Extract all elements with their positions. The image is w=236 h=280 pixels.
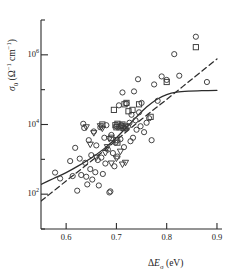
y-tick-base: 10 [27, 188, 36, 198]
data-point-circle [102, 135, 107, 140]
data-point-circle [75, 188, 80, 193]
y-axis-label-cm-exp: −1 [5, 42, 12, 49]
data-point-circle [58, 176, 63, 181]
data-point-circle [100, 171, 105, 176]
y-tick-base: 10 [27, 49, 36, 59]
x-axis-label: ΔEσ (eV) [148, 258, 183, 268]
data-point-circle [94, 143, 99, 148]
data-point-square [148, 114, 153, 119]
y-axis-label-paren-close: ) [7, 39, 17, 42]
data-point-circle [131, 89, 136, 94]
data-point-circle [79, 172, 84, 177]
y-axis-label-omega: Ω [7, 70, 17, 77]
y-axis-label-paren-open: ( [7, 77, 17, 80]
data-point-circle [152, 82, 157, 87]
data-point-circle [85, 182, 90, 187]
data-point-triangle-down [87, 142, 93, 147]
data-point-circle [84, 174, 89, 179]
y-axis-label: σ0 (Ω−1 cm−1) [7, 32, 17, 98]
data-point-circle [177, 73, 182, 78]
y-tick-base: 10 [27, 119, 36, 129]
data-points [52, 34, 209, 195]
data-point-circle [172, 52, 177, 57]
data-point-triangle-down [106, 137, 112, 142]
data-point-circle [193, 34, 198, 39]
data-point-circle [96, 183, 101, 188]
data-point-circle [164, 77, 169, 82]
fit-curves [41, 59, 217, 201]
x-tick-label: 0.7 [102, 232, 130, 242]
data-point-square [193, 45, 198, 50]
data-point-circle [141, 130, 146, 135]
data-point-circle [138, 124, 143, 129]
data-point-circle [204, 79, 209, 84]
data-point-circle [149, 138, 154, 143]
y-tick-label: 102 [17, 188, 39, 198]
data-point-triangle-down [83, 125, 89, 130]
data-point-square [111, 107, 116, 112]
series-squares [100, 45, 199, 146]
x-axis-label-subscript: σ [160, 263, 164, 270]
data-point-circle [120, 90, 125, 95]
x-tick-label: 0.9 [203, 232, 231, 242]
data-point-circle [93, 170, 98, 175]
y-tick-exponent: 6 [36, 48, 39, 54]
data-point-circle [52, 170, 57, 175]
data-point-circle [103, 161, 108, 166]
data-point-circle [147, 116, 152, 121]
y-tick-label: 106 [17, 49, 39, 59]
data-point-circle [88, 166, 93, 171]
data-point-circle [135, 77, 140, 82]
x-tick-label: 0.6 [52, 232, 80, 242]
y-axis-label-symbol: σ [7, 86, 17, 91]
data-point-circle [68, 158, 73, 163]
data-point-circle [73, 145, 78, 150]
x-axis-label-unit: (eV) [166, 258, 183, 268]
data-point-circle [90, 177, 95, 182]
y-axis-label-subscript: 0 [12, 83, 19, 86]
dashed-fit [41, 59, 217, 201]
data-point-circle [77, 156, 82, 161]
data-point-circle [159, 74, 164, 79]
y-axis-label-cm: cm [7, 49, 17, 61]
y-tick-label: 104 [17, 119, 39, 129]
y-tick-exponent: 4 [36, 118, 39, 124]
y-tick-exponent: 2 [36, 187, 39, 193]
x-tick-label: 0.8 [153, 232, 181, 242]
data-point-circle [110, 150, 115, 155]
figure: σ0 (Ω−1 cm−1) ΔEσ (eV) 0.60.70.80.910210… [0, 0, 236, 280]
y-axis-label-omega-exp: −1 [5, 63, 12, 70]
data-point-circle [116, 103, 121, 108]
series-circles [52, 34, 209, 195]
